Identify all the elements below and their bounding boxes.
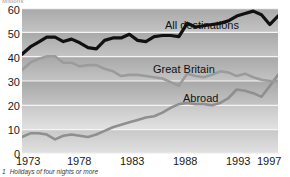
plot-area: All destinations Great Britain Abroad [22,8,278,154]
chart-figure: Millions 60 50 40 30 20 10 0 [0,0,290,177]
footnote-text: Holidays of four nights or more [10,168,99,175]
series-label-great-britain: Great Britain [153,64,215,75]
x-tick-1997: 1997 [257,155,281,167]
chart-svg [22,8,278,154]
x-tick-1988: 1988 [173,155,197,167]
x-tick-1983: 1983 [120,155,144,167]
x-tick-1978: 1978 [67,155,91,167]
y-tick-30: 30 [8,77,20,88]
y-axis-labels: 60 50 40 30 20 10 0 [0,8,20,154]
chart-footnote: 1Holidays of four nights or more [2,168,98,176]
x-axis-labels: 1973 1978 1983 1988 1993 1997 [0,155,290,169]
y-tick-10: 10 [8,125,20,136]
x-tick-1993: 1993 [226,155,250,167]
y-tick-40: 40 [8,53,20,64]
series-label-abroad: Abroad [183,93,218,104]
y-tick-20: 20 [8,101,20,112]
series-label-all-destinations: All destinations [165,20,239,31]
y-tick-60: 60 [8,5,20,16]
footnote-marker: 1 [2,168,6,175]
y-tick-50: 50 [8,29,20,40]
x-tick-1973: 1973 [16,155,40,167]
